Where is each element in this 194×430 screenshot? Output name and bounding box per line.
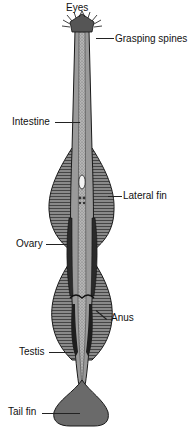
label-intestine: Intestine <box>12 116 50 127</box>
label-testis: Testis <box>19 346 45 357</box>
leader-ovary <box>46 244 68 245</box>
ventral-ganglion <box>79 175 85 189</box>
label-eyes: Eyes <box>66 2 88 13</box>
head <box>70 14 94 32</box>
label-tail-fin: Tail fin <box>8 406 36 417</box>
label-ovary: Ovary <box>16 238 43 249</box>
arrow-worm-diagram <box>0 0 194 430</box>
label-lateral-fin: Lateral fin <box>123 190 167 201</box>
leader-intestine <box>55 122 80 123</box>
leader-grasping-spines <box>96 38 114 39</box>
leader-testis <box>49 352 73 353</box>
label-grasping-spines: Grasping spines <box>115 33 187 44</box>
leader-lateral-fin <box>108 196 122 197</box>
label-anus: Anus <box>111 312 134 323</box>
tail-fin <box>54 380 109 426</box>
leader-tail-fin <box>42 413 80 414</box>
intestine <box>78 32 86 388</box>
